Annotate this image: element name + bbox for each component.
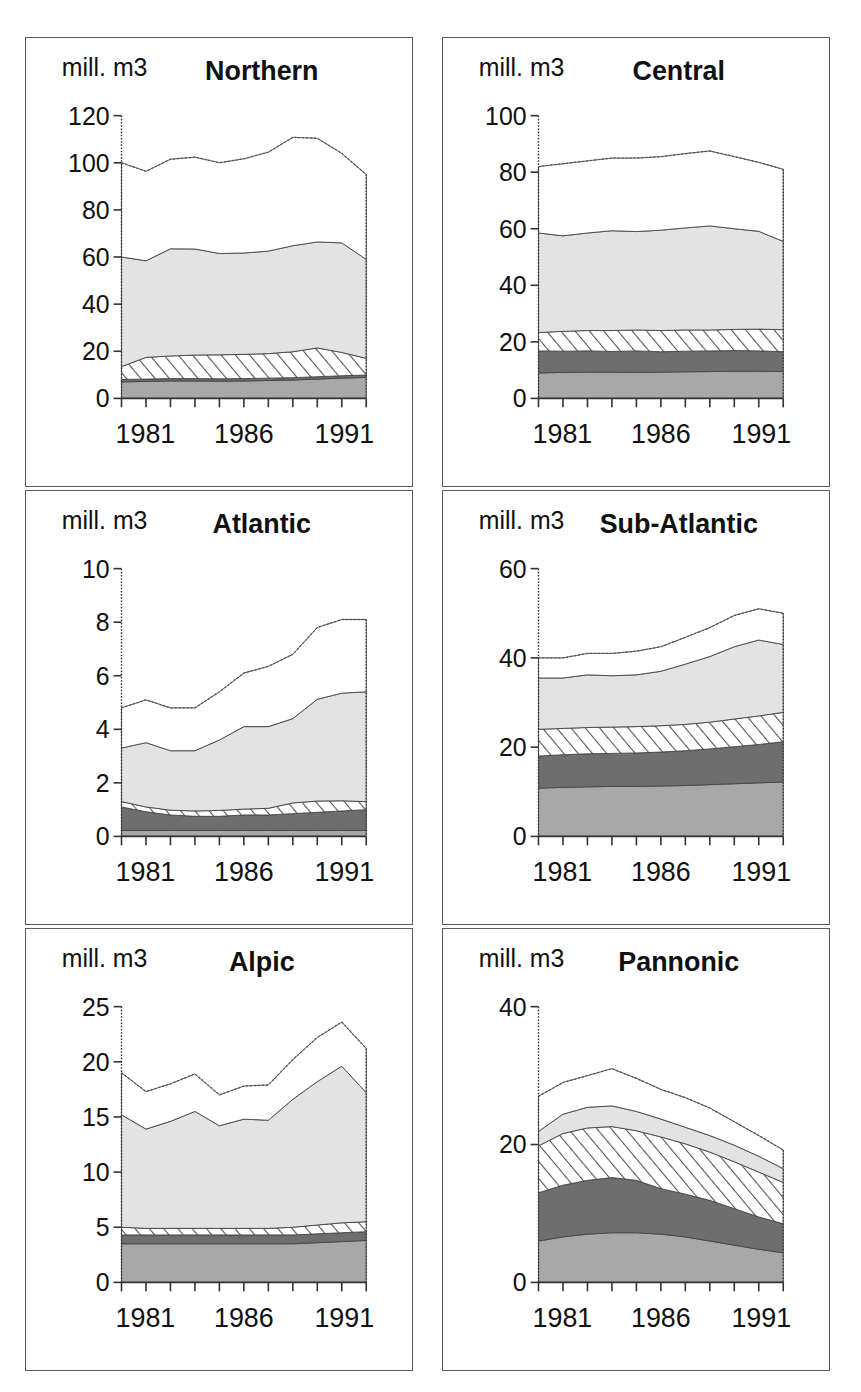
chart-atlantic: mill. m3Atlantic0246810198119861991 (26, 491, 412, 924)
chart-pannonic: mill. m3Pannonic02040198119861991 (443, 929, 829, 1370)
y-tick-label: 80 (499, 158, 527, 186)
chart-alpic: mill. m3Alpic0510152025198119861991 (26, 929, 412, 1370)
chart-panel-atlantic: mill. m3Atlantic0246810198119861991 (25, 490, 413, 925)
x-tick-label-2: 1991 (731, 857, 791, 887)
y-tick-label: 0 (513, 384, 527, 412)
area-layer-1 (122, 1240, 367, 1282)
y-tick-label: 8 (96, 608, 110, 636)
y-tick-label: 60 (82, 243, 110, 271)
y-tick-label: 40 (499, 271, 527, 299)
area-layer-3 (539, 329, 784, 352)
x-tick-label-1: 1986 (631, 1303, 691, 1333)
panel-title: Atlantic (213, 509, 312, 539)
x-tick-label-1: 1986 (214, 419, 274, 449)
unit-label: mill. m3 (479, 506, 565, 534)
chart-panel-sub-atlantic: mill. m3Sub-Atlantic0204060198119861991 (442, 490, 830, 925)
y-tick-label: 20 (499, 733, 527, 761)
y-tick-label: 0 (96, 384, 110, 412)
y-tick-label: 40 (499, 644, 527, 672)
x-tick-label-2: 1991 (314, 857, 374, 887)
chart-panel-central: mill. m3Central020406080100198119861991 (442, 37, 830, 487)
y-tick-label: 20 (499, 1130, 527, 1158)
chart-sub-atlantic: mill. m3Sub-Atlantic0204060198119861991 (443, 491, 829, 924)
x-tick-label-1: 1986 (214, 1303, 274, 1333)
panel-title: Northern (205, 56, 318, 86)
y-tick-label: 0 (96, 1268, 110, 1296)
y-tick-label: 60 (499, 215, 527, 243)
chart-panel-alpic: mill. m3Alpic0510152025198119861991 (25, 928, 413, 1371)
panel-title: Sub-Atlantic (600, 509, 758, 539)
chart-panel-pannonic: mill. m3Pannonic02040198119861991 (442, 928, 830, 1371)
x-tick-label-1: 1986 (631, 419, 691, 449)
x-tick-label-2: 1991 (731, 419, 791, 449)
x-tick-label-2: 1991 (314, 1303, 374, 1333)
y-tick-label: 60 (499, 555, 527, 583)
y-tick-label: 100 (485, 102, 527, 130)
x-tick-label-1: 1986 (214, 857, 274, 887)
y-tick-label: 80 (82, 196, 110, 224)
area-layer-1 (122, 831, 367, 837)
y-tick-label: 40 (82, 290, 110, 318)
y-tick-label: 15 (82, 1103, 110, 1131)
x-tick-label-0: 1981 (533, 419, 593, 449)
area-layer-1 (539, 782, 784, 836)
y-tick-label: 5 (96, 1213, 110, 1241)
unit-label: mill. m3 (479, 53, 565, 81)
y-tick-label: 100 (68, 149, 110, 177)
x-tick-label-2: 1991 (731, 1303, 791, 1333)
y-tick-label: 20 (82, 337, 110, 365)
x-tick-label-0: 1981 (533, 1303, 593, 1333)
chart-grid: mill. m3Northern020406080100120198119861… (0, 22, 861, 1374)
y-tick-label: 0 (513, 1268, 527, 1296)
y-tick-label: 25 (82, 993, 110, 1021)
y-tick-label: 2 (96, 769, 110, 797)
x-tick-label-0: 1981 (533, 857, 593, 887)
y-tick-label: 40 (499, 993, 527, 1021)
unit-label: mill. m3 (62, 506, 148, 534)
panel-title: Pannonic (618, 947, 739, 977)
chart-northern: mill. m3Northern020406080100120198119861… (26, 38, 412, 486)
area-layer-2 (539, 351, 784, 373)
y-tick-label: 6 (96, 662, 110, 690)
panel-title: Central (633, 56, 726, 86)
y-tick-label: 0 (96, 822, 110, 850)
x-tick-label-0: 1981 (116, 857, 176, 887)
x-tick-label-0: 1981 (116, 419, 176, 449)
area-layer-5 (122, 137, 367, 260)
unit-label: mill. m3 (62, 53, 148, 81)
y-tick-label: 10 (82, 1158, 110, 1186)
y-tick-label: 20 (82, 1048, 110, 1076)
y-tick-label: 10 (82, 555, 110, 583)
y-tick-label: 20 (499, 328, 527, 356)
x-tick-label-0: 1981 (116, 1303, 176, 1333)
unit-label: mill. m3 (479, 944, 565, 972)
area-layer-1 (539, 371, 784, 398)
x-tick-label-2: 1991 (314, 419, 374, 449)
y-tick-label: 0 (513, 822, 527, 850)
panel-title: Alpic (229, 947, 295, 977)
y-tick-label: 120 (68, 102, 110, 130)
y-tick-label: 4 (96, 715, 110, 743)
unit-label: mill. m3 (62, 944, 148, 972)
area-layer-4 (122, 242, 367, 367)
area-layer-4 (539, 226, 784, 333)
area-layer-5 (539, 151, 784, 241)
chart-panel-northern: mill. m3Northern020406080100120198119861… (25, 37, 413, 487)
cropped-header-strip (0, 0, 861, 14)
x-tick-label-1: 1986 (631, 857, 691, 887)
chart-central: mill. m3Central020406080100198119861991 (443, 38, 829, 486)
